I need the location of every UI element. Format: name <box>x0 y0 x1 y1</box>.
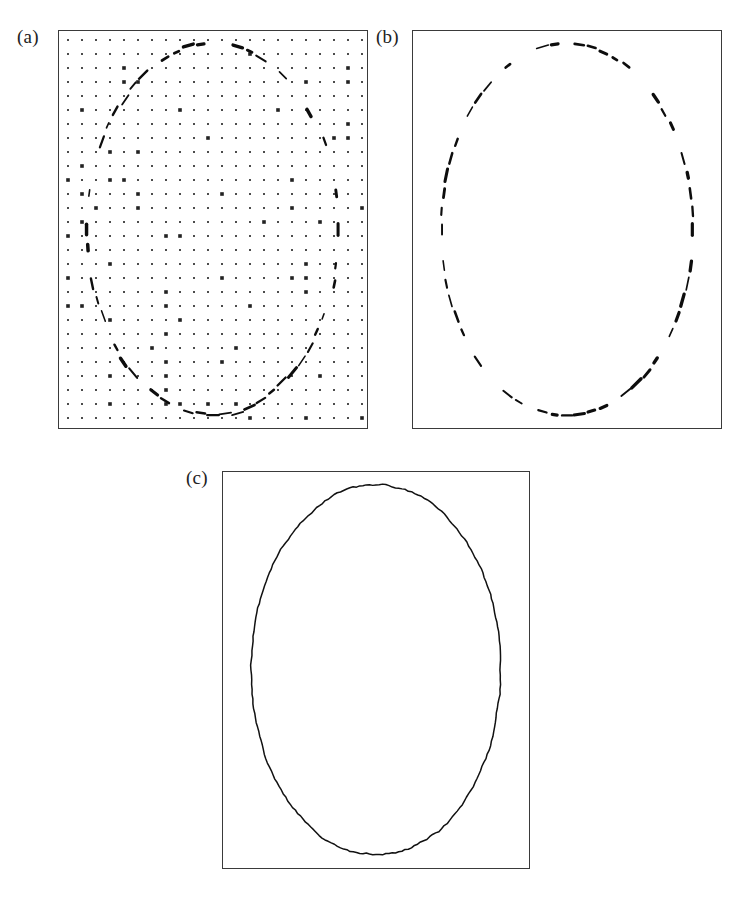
edge-fragment <box>537 45 549 48</box>
grid-dot <box>151 193 153 195</box>
grid-dot <box>333 347 335 349</box>
grid-dot <box>221 81 223 83</box>
grid-dot <box>361 389 363 391</box>
grid-dot <box>361 193 363 195</box>
grid-dot <box>235 305 237 307</box>
grid-dot <box>277 417 279 419</box>
edge-fragment <box>139 71 147 79</box>
grid-dot <box>305 165 307 167</box>
grid-dot <box>220 276 224 280</box>
grid-dot <box>165 347 167 349</box>
grid-dot <box>179 81 181 83</box>
grid-dot <box>291 291 293 293</box>
edge-fragment <box>600 405 607 408</box>
grid-dot <box>263 319 265 321</box>
grid-dot <box>319 347 321 349</box>
edge-fragment <box>681 294 684 306</box>
grid-dot <box>179 417 181 419</box>
grid-dot <box>95 375 97 377</box>
edge-fragment <box>122 95 128 104</box>
grid-dot <box>151 207 153 209</box>
grid-dot <box>277 81 279 83</box>
grid-dot <box>361 39 363 41</box>
edge-fragment <box>107 123 109 128</box>
grid-dot <box>249 389 251 391</box>
grid-dot <box>207 123 209 125</box>
grid-dot <box>206 136 210 140</box>
grid-dot <box>207 151 209 153</box>
grid-dot <box>347 193 349 195</box>
grid-dot <box>263 235 265 237</box>
grid-dot <box>319 137 321 139</box>
edge-fragment <box>461 330 464 336</box>
grid-dot <box>67 249 69 251</box>
grid-dot <box>193 277 195 279</box>
grid-dot <box>95 347 97 349</box>
grid-dot <box>333 165 335 167</box>
grid-dot <box>291 361 293 363</box>
grid-dot <box>347 319 349 321</box>
grid-dot <box>291 347 293 349</box>
grid-dot <box>193 333 195 335</box>
edge-fragment <box>121 358 126 366</box>
grid-dot <box>319 263 321 265</box>
grid-dot <box>179 179 181 181</box>
grid-dot <box>137 389 139 391</box>
grid-dot <box>235 81 237 83</box>
grid-dot <box>109 95 111 97</box>
grid-dot <box>207 263 209 265</box>
grid-dot <box>319 81 321 83</box>
edge-fragment <box>445 280 447 288</box>
grid-dot <box>249 235 251 237</box>
grid-dot <box>67 417 69 419</box>
grid-dot <box>108 262 112 266</box>
edge-fragment <box>484 82 491 91</box>
grid-dot <box>109 67 111 69</box>
grid-dot <box>165 263 167 265</box>
grid-dot <box>123 319 125 321</box>
grid-dot <box>109 39 111 41</box>
grid-dot <box>249 123 251 125</box>
grid-dot <box>179 305 181 307</box>
grid-dot <box>333 417 335 419</box>
grid-dot <box>109 361 111 363</box>
grid-dot <box>333 319 335 321</box>
edge-fragment-group <box>87 44 339 415</box>
grid-dot <box>81 319 83 321</box>
edge-fragment <box>244 405 254 410</box>
edge-fragment <box>687 172 688 178</box>
grid-dot <box>277 207 279 209</box>
grid-dot <box>165 165 167 167</box>
grid-dot <box>81 123 83 125</box>
grid-dot <box>165 417 167 419</box>
grid-dot <box>277 39 279 41</box>
edge-fragment <box>183 44 193 47</box>
grid-dot <box>193 403 195 405</box>
grid-dot <box>361 347 363 349</box>
grid-dot <box>249 207 251 209</box>
edge-fragment <box>676 312 679 321</box>
grid-dot <box>361 277 363 279</box>
grid-dot <box>291 53 293 55</box>
grid-dot <box>361 109 363 111</box>
grid-dot <box>123 95 125 97</box>
grid-dot <box>193 221 195 223</box>
grid-dot <box>179 151 181 153</box>
grid-dot <box>277 389 279 391</box>
grid-dot <box>249 347 251 349</box>
panel-c-label: (c) <box>186 468 208 487</box>
grid-dot <box>137 179 139 181</box>
grid-dot <box>207 333 209 335</box>
edge-fragment <box>299 356 305 365</box>
grid-dot <box>361 165 363 167</box>
grid-dot <box>165 95 167 97</box>
edge-fragment <box>114 345 117 350</box>
grid-dot <box>179 389 181 391</box>
grid-dot <box>123 109 125 111</box>
grid-dot <box>235 53 237 55</box>
grid-dot <box>179 53 181 55</box>
grid-dot <box>249 319 251 321</box>
edge-fragment <box>256 56 265 62</box>
grid-dot <box>193 291 195 293</box>
grid-dot <box>277 305 279 307</box>
